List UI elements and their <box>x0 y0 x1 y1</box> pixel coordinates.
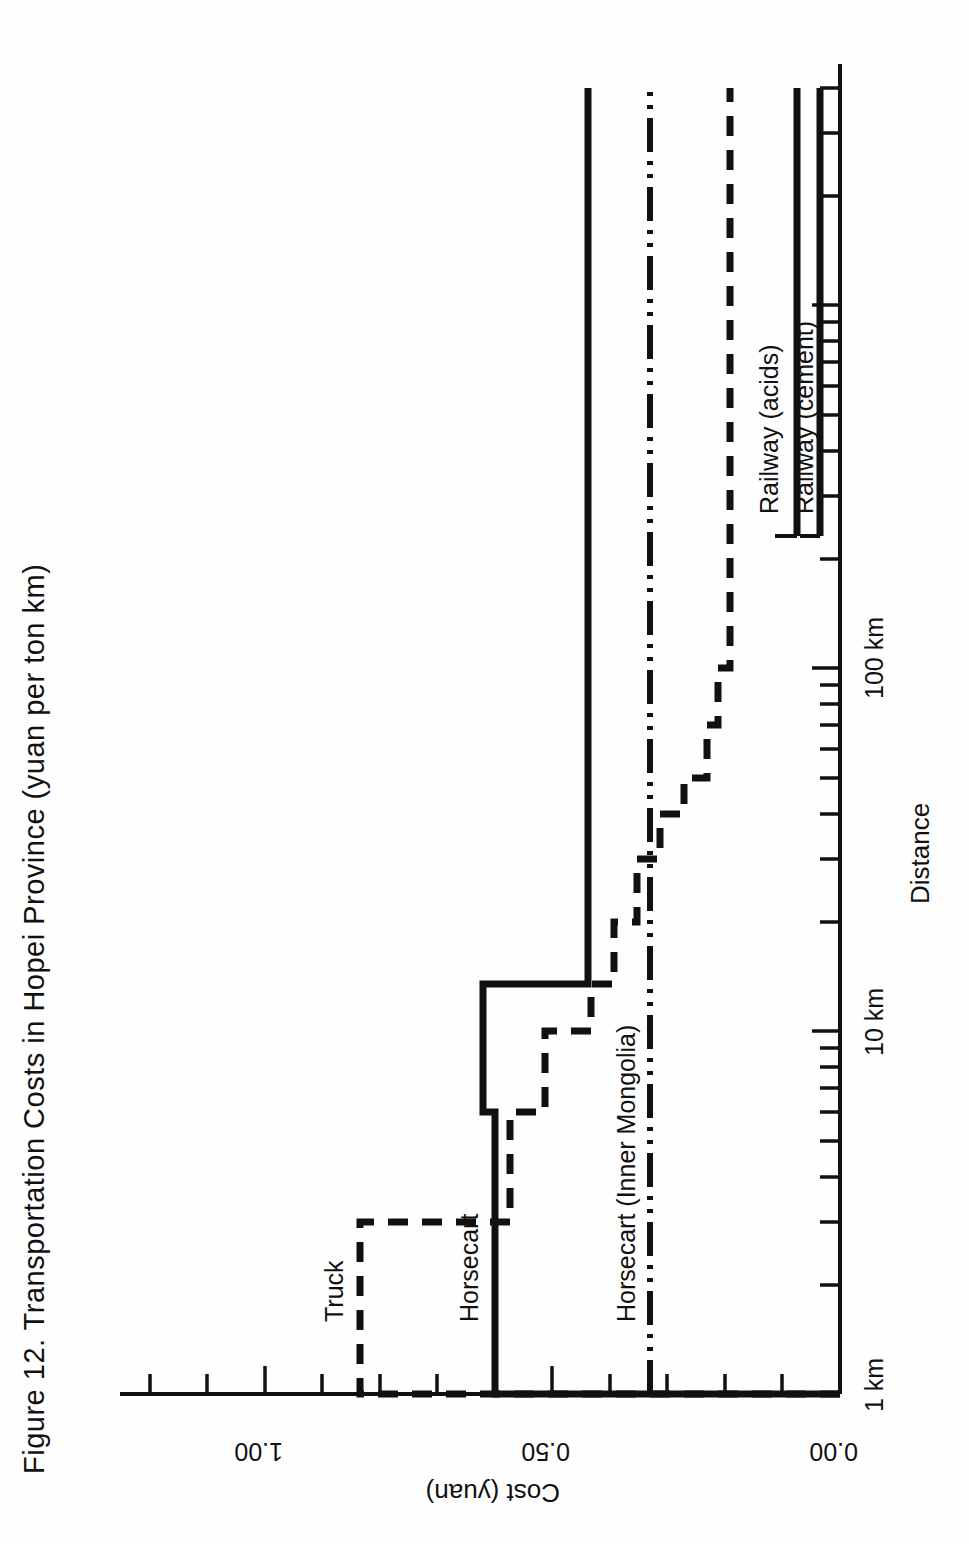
y-tick-label-050: 0.50 <box>521 1437 570 1466</box>
series-truck-line <box>360 88 840 1394</box>
figure-page: Figure 12. Transportation Costs in Hopei… <box>0 0 969 1544</box>
x-axis-title: Distance <box>905 803 936 904</box>
y-tick-label-000: 0.00 <box>809 1437 858 1466</box>
series-label-truck: Truck <box>320 1260 349 1322</box>
series-horsecart-line <box>483 88 840 1394</box>
x-tick-label-100km: 100 km <box>860 617 889 699</box>
series-label-horsecart: Horsecart <box>455 1214 484 1322</box>
series-label-railway-acids: Railway (acids) <box>755 345 784 514</box>
figure-canvas: Figure 12. Transportation Costs in Hopei… <box>0 0 969 1544</box>
x-tick-label-1km: 1 km <box>860 1358 889 1412</box>
y-tick-label-100: 1.00 <box>234 1437 283 1466</box>
x-axis-ticks <box>812 88 840 1394</box>
series-label-railway-cement: Railway (cement) <box>790 321 819 514</box>
chart-plot-area <box>0 0 969 1544</box>
rotated-figure-wrapper: Figure 12. Transportation Costs in Hopei… <box>0 0 969 1544</box>
x-tick-label-10km: 10 km <box>860 988 889 1056</box>
y-axis-title: Cost (yuan) <box>426 1477 560 1508</box>
series-label-horsecart-inner-mongolia: Horsecart (Inner Mongolia) <box>612 1025 641 1322</box>
